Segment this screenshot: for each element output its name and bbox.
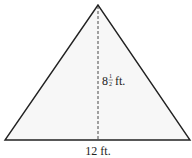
height-frac-num: 1 (109, 73, 112, 79)
triangle-diagram: 8 1 2 ft. 12 ft. (0, 0, 192, 158)
height-frac-den: 2 (109, 81, 112, 87)
base-label: 12 ft. (85, 144, 110, 158)
height-whole: 8 (102, 74, 108, 88)
triangle (5, 5, 190, 140)
height-unit: ft. (115, 74, 125, 88)
